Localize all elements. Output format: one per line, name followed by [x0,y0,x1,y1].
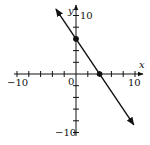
plotted-line [56,9,134,125]
y-axis-label: y [67,5,74,16]
y-min-tick-label: −10 [55,127,76,138]
axes [14,5,143,136]
point-marker [73,36,79,42]
point-marker [97,71,103,77]
x-axis-label: x [139,59,145,70]
x-max-tick-label: 10 [128,77,141,88]
y-max-tick-label: 10 [80,10,93,21]
x-min-tick-label: −10 [7,77,28,88]
coordinate-plane: x y −10 10 10 −10 0 [0,0,150,145]
origin-label: 0 [68,76,74,87]
